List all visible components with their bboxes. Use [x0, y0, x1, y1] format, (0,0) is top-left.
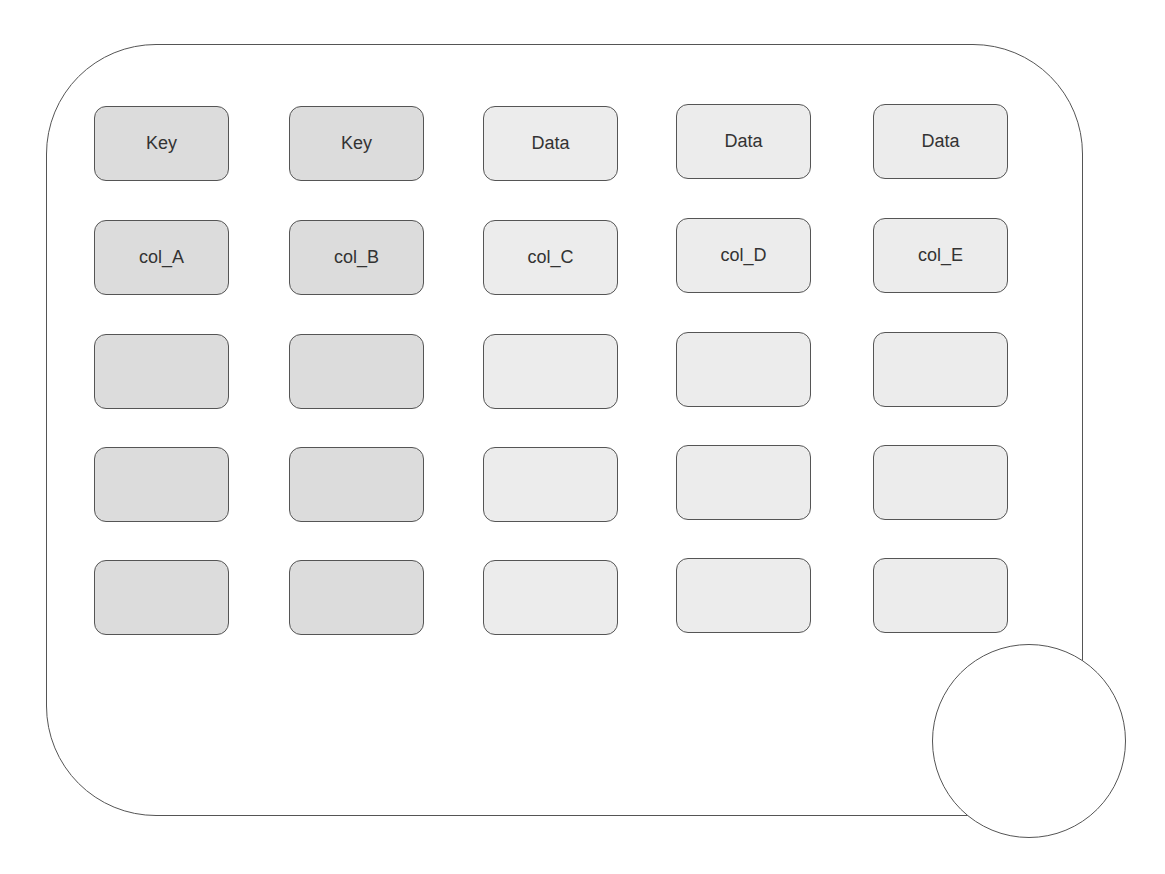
data-cell-r3-col-a — [94, 447, 229, 522]
header-cell-col-e: Data — [873, 104, 1008, 179]
column-name-cell-col-d: col_D — [676, 218, 811, 293]
data-cell-r3-col-d — [676, 445, 811, 520]
data-cell-r4-col-d — [676, 558, 811, 633]
column-name-cell-col-b: col_B — [289, 220, 424, 295]
data-cell-r3-col-e — [873, 445, 1008, 520]
column-name-cell-col-c: col_C — [483, 220, 618, 295]
data-cell-r4-col-a — [94, 560, 229, 635]
data-cell-r3-col-c — [483, 447, 618, 522]
header-cell-col-a: Key — [94, 106, 229, 181]
data-cell-r4-col-c — [483, 560, 618, 635]
corner-circle — [932, 644, 1126, 838]
data-cell-r2-col-c — [483, 334, 618, 409]
column-name-cell-col-e: col_E — [873, 218, 1008, 293]
data-cell-r4-col-e — [873, 558, 1008, 633]
column-name-cell-col-a: col_A — [94, 220, 229, 295]
data-cell-r4-col-b — [289, 560, 424, 635]
data-cell-r2-col-e — [873, 332, 1008, 407]
header-cell-col-c: Data — [483, 106, 618, 181]
data-cell-r2-col-a — [94, 334, 229, 409]
data-cell-r3-col-b — [289, 447, 424, 522]
data-cell-r2-col-b — [289, 334, 424, 409]
header-cell-col-b: Key — [289, 106, 424, 181]
data-cell-r2-col-d — [676, 332, 811, 407]
header-cell-col-d: Data — [676, 104, 811, 179]
